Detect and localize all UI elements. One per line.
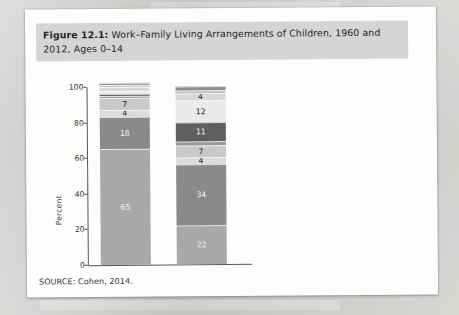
bar-segment — [99, 87, 149, 91]
y-axis-tick-label: 40 — [64, 189, 84, 198]
bar-segment-value: 4 — [198, 94, 203, 101]
bar-segment-value: 22 — [197, 241, 207, 249]
bar-segment: 34 — [176, 164, 226, 225]
bar-segment: 7 — [176, 145, 226, 158]
bar-segment-value: 18 — [120, 130, 130, 138]
bar-segment — [176, 141, 226, 145]
bar-segment — [175, 86, 225, 90]
x-axis-labels — [39, 72, 424, 75]
plot-area: 651847 22344711124 — [87, 86, 250, 265]
y-axis-tick-label: 20 — [65, 225, 85, 234]
bar-segment — [176, 90, 226, 94]
bar-segment-value: 7 — [198, 148, 203, 156]
source-note: SOURCE: Cohen, 2014. — [39, 277, 133, 287]
bar-segment — [100, 90, 150, 94]
bar-segment: 4 — [100, 110, 150, 118]
ghost-text-band — [40, 300, 340, 310]
bar-segment: 65 — [100, 149, 151, 265]
bar-segment: 22 — [177, 225, 227, 265]
y-axis-ticks: 100806040200 — [61, 87, 84, 265]
bar-2012: 22344711124 — [175, 86, 226, 264]
y-axis-tick-label: 0 — [65, 261, 85, 270]
y-axis-tick-label: 80 — [64, 118, 84, 127]
bar-segment-value: 12 — [196, 108, 206, 116]
bar-segment-value: 4 — [199, 158, 204, 165]
bar-segment-value: 4 — [122, 110, 127, 117]
bar-segment: 4 — [176, 93, 226, 101]
chart-legend — [254, 94, 426, 95]
y-axis-tick-label: 100 — [63, 83, 83, 92]
bar-segment: 11 — [176, 122, 226, 142]
bar-segment-value: 65 — [120, 204, 130, 212]
bar-segment: 18 — [100, 117, 150, 149]
bar-segment-value: 11 — [196, 128, 206, 136]
figure-number: Figure 12.1: — [43, 29, 108, 41]
figure-page: Figure 12.1: Work–Family Living Arrangem… — [25, 6, 438, 297]
bar-segment: 4 — [176, 157, 226, 165]
bar-segment-value: 7 — [122, 100, 127, 108]
bar-segment: 7 — [100, 97, 150, 110]
bar-1960: 651847 — [99, 87, 150, 265]
bar-segment: 12 — [176, 100, 226, 122]
chart: Percent 100806040200 651847 22344711124 — [39, 72, 426, 275]
figure-caption: Figure 12.1: Work–Family Living Arrangem… — [36, 21, 408, 62]
bar-segment-value: 34 — [196, 191, 206, 199]
y-axis-tick-label: 60 — [64, 154, 84, 163]
